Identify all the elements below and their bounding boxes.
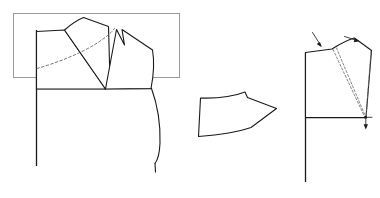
right-shoulder-arrow-down-head [317,42,322,47]
right-shoulder-arrow-down [313,33,322,48]
figure-left-bodice-front-with-rotated-dart [14,14,180,173]
figure-right-bodice-front-dart-rotation [305,33,372,183]
pattern-diagram-canvas: Bodice dart manipulation pattern draft [0,0,380,198]
right-pivot-arrow-down-head [364,124,368,129]
left-armhole-side-panel [106,30,154,90]
left-side-seam-curve [152,89,161,164]
right-bodice-outline [306,38,372,118]
left-side-seam-hem-tick [155,164,156,173]
right-dart-pivot-point [364,116,367,119]
right-pivot-arrow-down [364,119,368,130]
middle-wedge-outline [199,92,277,137]
diagram-svg [0,0,380,198]
figure-middle-cut-away-dart-wedge [199,92,277,137]
